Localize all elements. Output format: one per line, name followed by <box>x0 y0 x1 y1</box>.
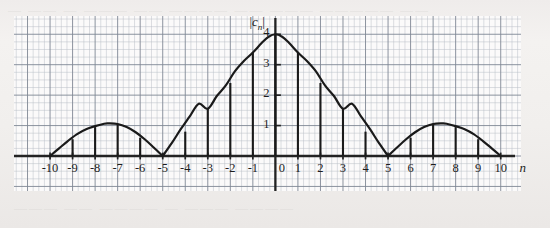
x-tick-label--5: -5 <box>158 161 168 176</box>
x-tick-label-8: 8 <box>453 161 459 176</box>
x-tick-label--9: -9 <box>67 161 77 176</box>
x-tick-label-1: 1 <box>295 161 301 176</box>
x-tick-label-5: 5 <box>385 161 391 176</box>
x-tick-label--8: -8 <box>90 161 100 176</box>
x-tick-label-3: 3 <box>340 161 346 176</box>
x-axis-title: n <box>519 160 526 176</box>
y-tick-label-3: 3 <box>263 56 269 71</box>
x-tick-label--6: -6 <box>135 161 145 176</box>
y-tick-label-2: 2 <box>263 86 269 101</box>
x-tick-label-2: 2 <box>317 161 323 176</box>
x-tick-label--10: -10 <box>42 161 59 176</box>
page-bleedthrough-bottom: ——— —— ———— — ——— ———— <box>14 200 295 216</box>
x-tick-label-10: 10 <box>494 161 507 176</box>
x-tick-label--7: -7 <box>112 161 122 176</box>
x-tick-label-9: 9 <box>475 161 481 176</box>
x-tick-label--4: -4 <box>180 161 190 176</box>
x-tick-label--3: -3 <box>203 161 213 176</box>
y-tick-label-1: 1 <box>263 117 269 132</box>
x-tick-label--1: -1 <box>248 161 258 176</box>
y-axis-title: |cn| <box>249 14 265 32</box>
graph-plot-area: -10-9-8-7-6-5-4-3-2-10123456789101234|cn… <box>14 16 521 191</box>
x-tick-label-0: 0 <box>279 161 285 176</box>
x-tick-label-6: 6 <box>407 161 413 176</box>
x-tick-label-4: 4 <box>362 161 368 176</box>
x-tick-label--2: -2 <box>225 161 235 176</box>
x-tick-label-7: 7 <box>430 161 436 176</box>
